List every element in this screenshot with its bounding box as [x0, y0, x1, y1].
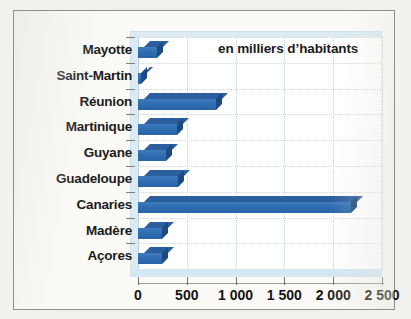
- gridline-horizontal: [138, 166, 382, 167]
- y-axis-label: Réunion: [0, 94, 132, 109]
- y-axis-tick: [126, 166, 135, 167]
- x-axis-tick: [138, 277, 139, 285]
- bar-side-face: [141, 67, 147, 84]
- gridline-vertical: [236, 37, 237, 269]
- bar-front-face: [138, 73, 141, 84]
- y-axis-label: Martinique: [0, 119, 132, 134]
- bar: [138, 41, 163, 58]
- y-axis-label: Madère: [0, 223, 132, 238]
- x-axis-tick: [284, 277, 285, 285]
- y-axis-tick: [126, 192, 135, 193]
- figure-frame: MayotteSaint-MartinRéunionMartiniqueGuya…: [13, 10, 395, 310]
- bar-front-face: [138, 150, 166, 161]
- gridline-vertical: [187, 37, 188, 269]
- y-axis-tick: [126, 89, 135, 90]
- gridline-horizontal: [138, 140, 382, 141]
- bar: [138, 170, 184, 187]
- gridline-vertical: [284, 37, 285, 269]
- x-axis-tick-label: 2 500: [364, 287, 399, 303]
- y-axis-label: Guadeloupe: [0, 171, 132, 186]
- bar-chart: MayotteSaint-MartinRéunionMartiniqueGuya…: [14, 11, 394, 309]
- y-axis-tick: [126, 114, 135, 115]
- x-axis-tick: [333, 277, 334, 285]
- bar-front-face: [138, 124, 177, 135]
- x-axis-tick-label: 500: [175, 287, 198, 303]
- x-axis-tick-label: 2 000: [316, 287, 351, 303]
- x-axis-tick-label: 0: [134, 287, 142, 303]
- gridline-horizontal: [138, 37, 382, 38]
- y-axis-tick: [126, 37, 135, 38]
- y-axis-label: Saint-Martin: [0, 68, 132, 83]
- y-axis-label: Mayotte: [0, 42, 132, 57]
- x-axis-tick: [236, 277, 237, 285]
- bar-front-face: [138, 99, 216, 110]
- y-axis-label: Açores: [0, 248, 132, 263]
- gridline-vertical: [333, 37, 334, 269]
- y-axis-tick: [126, 140, 135, 141]
- x-axis-tick-label: 1 000: [218, 287, 253, 303]
- bar: [138, 67, 147, 84]
- y-axis-label: Canaries: [0, 197, 132, 212]
- y-axis-tick: [126, 63, 135, 64]
- chart-annotation: en milliers d’habitants: [218, 41, 358, 56]
- y-axis-tick: [126, 243, 135, 244]
- bar-front-face: [138, 202, 351, 213]
- gridline-horizontal: [138, 114, 382, 115]
- bar-front-face: [138, 253, 162, 264]
- gridline-horizontal: [138, 63, 382, 64]
- gridline-horizontal: [138, 218, 382, 219]
- bar: [138, 118, 183, 135]
- y-axis-labels: MayotteSaint-MartinRéunionMartiniqueGuya…: [0, 11, 132, 309]
- bar: [138, 247, 168, 264]
- x-axis-tick: [187, 277, 188, 285]
- bar: [138, 222, 168, 239]
- gridline-vertical: [382, 37, 383, 269]
- bar: [138, 196, 357, 213]
- y-axis-tick: [126, 218, 135, 219]
- plot-floor-edge: [130, 269, 382, 277]
- bar: [138, 144, 172, 161]
- bar-front-face: [138, 47, 157, 58]
- gridline-horizontal: [138, 89, 382, 90]
- bar-front-face: [138, 176, 178, 187]
- y-axis-label: Guyane: [0, 145, 132, 160]
- x-axis-line: [138, 283, 384, 284]
- bar-front-face: [138, 228, 162, 239]
- x-axis-tick: [382, 277, 383, 285]
- plot-area: [138, 37, 382, 269]
- x-axis-tick-label: 1 500: [267, 287, 302, 303]
- bar: [138, 93, 222, 110]
- gridline-horizontal: [138, 192, 382, 193]
- gridline-horizontal: [138, 243, 382, 244]
